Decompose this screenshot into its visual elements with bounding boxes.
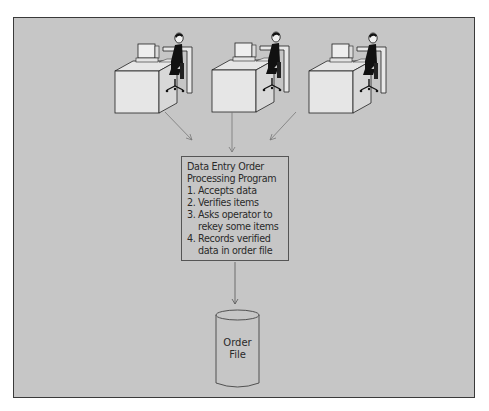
program-title-line1: Data Entry Order xyxy=(187,161,288,173)
arrow-right xyxy=(270,112,296,140)
arrow-left xyxy=(165,112,192,140)
program-step: 4.Records verified data in order file xyxy=(187,233,288,257)
workstation-1 xyxy=(115,33,192,113)
program-steps: 1.Accepts data 2.Verifies items 3.Asks o… xyxy=(187,185,288,257)
program-step: 3.Asks operator to rekey some items xyxy=(187,209,288,233)
program-title-line2: Processing Program xyxy=(187,173,288,185)
workstation-2 xyxy=(212,32,289,112)
arrow-middle xyxy=(229,112,235,152)
order-processing-program-box: Data Entry Order Processing Program 1.Ac… xyxy=(181,156,289,261)
program-step: 1.Accepts data xyxy=(187,185,288,197)
program-step: 2.Verifies items xyxy=(187,197,288,209)
arrow-to-file xyxy=(232,262,238,304)
order-file-label: Order File xyxy=(215,337,260,361)
workstation-3 xyxy=(309,33,386,113)
